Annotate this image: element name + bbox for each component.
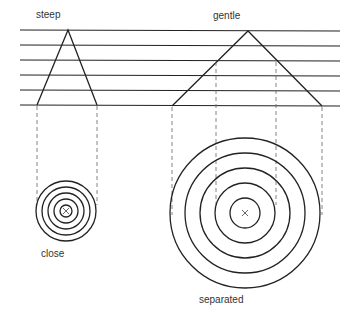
label-steep: steep: [36, 9, 60, 20]
separated-summit-x-icon: [242, 210, 248, 216]
diagram-svg: [0, 0, 352, 319]
level-lines: [20, 30, 340, 106]
label-gentle: gentle: [213, 10, 240, 21]
contour-diagram: steep gentle close separated: [0, 0, 352, 319]
gentle-slope-profile: [172, 31, 322, 106]
close-summit-x-icon: [63, 208, 69, 214]
steep-slope-profile: [37, 30, 97, 105]
label-close: close: [41, 248, 64, 259]
label-separated: separated: [199, 294, 243, 305]
